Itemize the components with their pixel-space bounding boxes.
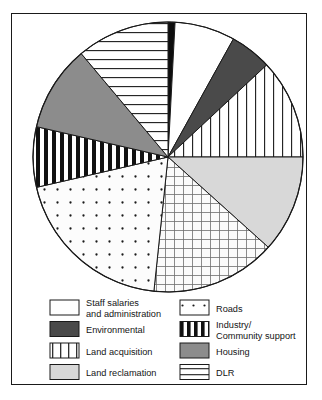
legend-label: DLR: [216, 368, 235, 378]
legend-label: Environmental: [86, 325, 145, 335]
legend-swatch: [180, 300, 209, 315]
legend-label: Housing: [216, 347, 250, 357]
pie-chart-svg: Staff salariesand administrationEnvironm…: [12, 14, 304, 383]
legend-label: Staff salaries: [86, 298, 139, 308]
chart-legend: Staff salariesand administrationEnvironm…: [50, 298, 296, 383]
legend-label: Land acquisition: [86, 347, 152, 357]
legend-label: Land reclamation: [86, 368, 156, 378]
legend-swatch: [180, 365, 209, 380]
chart-frame: Staff salariesand administrationEnvironm…: [11, 13, 307, 385]
pie-chart-figure: Staff salariesand administrationEnvironm…: [12, 14, 304, 383]
legend-swatch: [50, 343, 79, 358]
legend-label-line2: Community support: [216, 331, 296, 341]
legend-swatch: [50, 300, 79, 315]
legend-label: Roads: [216, 304, 243, 314]
legend-swatch: [50, 322, 79, 337]
legend-label-line2: and administration: [86, 309, 161, 319]
pie-slices: [33, 22, 303, 292]
legend-swatch: [50, 365, 79, 380]
legend-swatch: [180, 343, 209, 358]
legend-label: Industry/: [216, 320, 252, 330]
legend-swatch: [180, 322, 209, 337]
